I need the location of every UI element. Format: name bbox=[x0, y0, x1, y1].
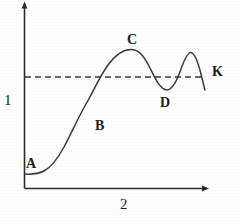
y-axis-label: 1 bbox=[4, 92, 12, 108]
point-label-b: B bbox=[95, 118, 104, 133]
vertical-axis-arrow-icon bbox=[22, 2, 28, 9]
point-label-c: C bbox=[127, 32, 137, 47]
horizontal-axis bbox=[25, 186, 210, 192]
x-axis-label: 2 bbox=[120, 196, 128, 212]
point-label-d: D bbox=[160, 95, 170, 110]
curve-diagram-svg: A B C D K 1 2 bbox=[0, 0, 240, 224]
primary-curve bbox=[25, 49, 206, 174]
point-label-k: K bbox=[212, 64, 223, 79]
horizontal-axis-arrow-icon bbox=[202, 186, 209, 192]
point-label-a: A bbox=[26, 156, 37, 171]
